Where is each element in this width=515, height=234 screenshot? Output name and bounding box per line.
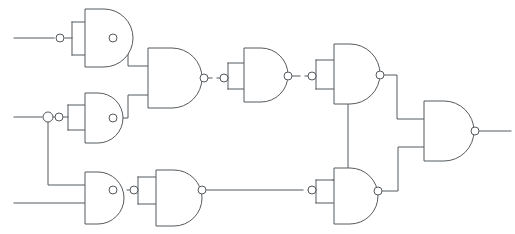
nand-gate-2[interactable] bbox=[43, 93, 123, 143]
input-b-junction-node bbox=[43, 112, 53, 122]
nand-gate-5[interactable] bbox=[220, 48, 292, 102]
nand-gate-8-body bbox=[156, 170, 202, 226]
nand-gate-9[interactable] bbox=[308, 168, 382, 224]
nand-gate-4-output-bubble bbox=[200, 74, 208, 82]
nand-gate-8-input-bubble bbox=[130, 186, 138, 194]
wire-input-b-branch-to-gate-3 bbox=[48, 117, 85, 185]
nand-gate-5-body bbox=[244, 48, 288, 102]
nand-gate-6-output-bubble bbox=[376, 71, 384, 79]
nand-gate-9-input-bubble bbox=[308, 186, 316, 194]
nand-gate-5-output-bubble bbox=[284, 72, 292, 80]
nand-gate-8-output-bubble bbox=[198, 186, 206, 194]
nand-gate-1-output-bubble bbox=[109, 34, 117, 42]
nand-gate-3-body bbox=[85, 172, 124, 224]
nand-gate-5-input-bubble bbox=[220, 74, 228, 82]
nand-gate-10-output-bubble bbox=[471, 127, 479, 135]
nand-gate-9-body bbox=[334, 168, 378, 224]
wire-gate-9-to-gate-10 bbox=[382, 147, 424, 191]
nand-gate-4[interactable] bbox=[148, 48, 208, 108]
nand-gate-2-output-bubble bbox=[109, 114, 117, 122]
nand-gate-3-output-bubble bbox=[109, 186, 117, 194]
nand-gate-2-input-bubble bbox=[55, 113, 63, 121]
logic-circuit-diagram bbox=[0, 0, 515, 234]
nand-gate-8[interactable] bbox=[130, 170, 206, 226]
nand-gate-1-input-bubble bbox=[56, 34, 64, 42]
nand-gate-4-body bbox=[148, 48, 202, 108]
nand-gate-3[interactable] bbox=[85, 172, 124, 224]
circuit-canvas bbox=[0, 0, 515, 234]
nand-gate-10[interactable] bbox=[424, 101, 479, 161]
wire-gate-6-to-gate-10 bbox=[384, 75, 424, 119]
gate-layer bbox=[43, 9, 479, 226]
nand-gate-6[interactable] bbox=[308, 44, 384, 104]
nand-gate-6-input-bubble bbox=[308, 72, 316, 80]
nand-gate-10-body bbox=[424, 101, 474, 161]
nand-gate-6-body bbox=[334, 44, 380, 104]
nand-gate-9-output-bubble bbox=[374, 187, 382, 195]
